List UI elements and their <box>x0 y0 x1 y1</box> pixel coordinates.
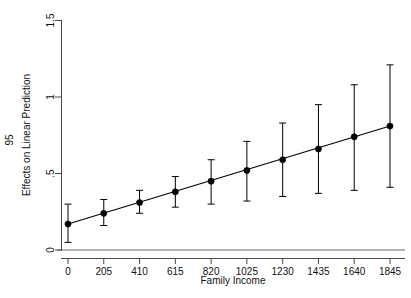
fitted-line <box>68 126 390 224</box>
data-point-marker <box>315 146 321 152</box>
confidence-interval-bars <box>65 65 394 242</box>
x-tick-label: 1640 <box>343 266 366 277</box>
y-tick-label: 1 <box>45 94 56 100</box>
x-tick-label: 205 <box>95 266 112 277</box>
data-point-marker <box>208 178 214 184</box>
x-tick-label: 1435 <box>307 266 330 277</box>
y-tick-labels: 0.511.5 <box>45 13 56 253</box>
data-point-marker <box>172 189 178 195</box>
data-point-marker <box>351 134 357 140</box>
y-tick-marks <box>55 21 61 251</box>
data-point-marker <box>387 123 393 129</box>
data-point-marker <box>136 199 142 205</box>
marginal-effects-chart: 0.511.5 Effects on Linear Prediction 95 … <box>0 0 411 298</box>
data-point-marker <box>65 221 71 227</box>
x-axis-group: 020541061582010251230143516401845 Family… <box>61 258 405 286</box>
y-tick-label: .5 <box>45 169 56 178</box>
x-tick-label: 0 <box>65 266 71 277</box>
data-point-marker <box>244 167 250 173</box>
x-tick-label: 1230 <box>272 266 295 277</box>
x-tick-label: 615 <box>167 266 184 277</box>
y-axis-group: 0.511.5 Effects on Linear Prediction 95 <box>4 13 62 253</box>
fitted-line-group <box>68 126 390 224</box>
data-point-marker <box>101 210 107 216</box>
x-axis-title: Family Income <box>200 275 265 286</box>
data-point-marker <box>280 157 286 163</box>
plot-canvas: 0.511.5 Effects on Linear Prediction 95 … <box>0 0 411 298</box>
x-tick-label: 1845 <box>379 266 402 277</box>
x-tick-label: 410 <box>131 266 148 277</box>
y-tick-label: 1.5 <box>45 13 56 27</box>
y-tick-label: 0 <box>45 247 56 253</box>
y-axis-title: Effects on Linear Prediction <box>21 74 32 196</box>
ci-level-label: 95 <box>4 134 15 146</box>
